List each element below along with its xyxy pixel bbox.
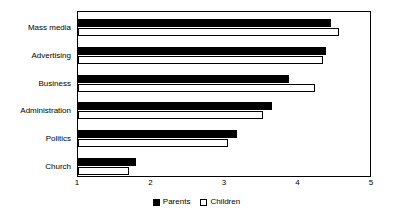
bar-parents-administration — [78, 102, 272, 110]
legend-label: Children — [210, 197, 240, 207]
plot-inner — [78, 12, 370, 176]
x-tick-label: 1 — [75, 178, 79, 188]
category-axis: Mass mediaAdvertisingBusinessAdministrat… — [0, 11, 74, 177]
chart-legend: ParentsChildren — [0, 195, 393, 209]
x-tick-label: 2 — [148, 178, 152, 188]
bar-children-advertising — [78, 56, 323, 64]
legend-item-parents: Parents — [153, 197, 191, 207]
bar-parents-business — [78, 75, 289, 83]
legend-label: Parents — [163, 197, 191, 207]
category-label: Administration — [20, 106, 71, 115]
filled-square-icon — [153, 199, 160, 206]
bar-parents-church — [78, 158, 136, 166]
category-label: Business — [39, 79, 71, 88]
bar-children-administration — [78, 111, 263, 119]
category-label: Politics — [46, 134, 71, 143]
bar-parents-politics — [78, 130, 237, 138]
bar-parents-advertising — [78, 47, 326, 55]
bar-children-church — [78, 167, 129, 175]
bar-children-business — [78, 84, 315, 92]
empty-square-icon — [200, 199, 207, 206]
category-label: Mass media — [28, 23, 71, 32]
plot-area — [77, 11, 371, 177]
x-tick-label: 5 — [369, 178, 373, 188]
x-tick-label: 3 — [222, 178, 226, 188]
category-label: Church — [45, 162, 71, 171]
bar-chart-figure: Mass mediaAdvertisingBusinessAdministrat… — [0, 0, 393, 217]
bar-parents-mass-media — [78, 19, 331, 27]
category-label: Advertising — [31, 51, 71, 60]
bar-children-mass-media — [78, 28, 339, 36]
bar-children-politics — [78, 139, 228, 147]
legend-item-children: Children — [200, 197, 240, 207]
x-axis: 12345 — [77, 178, 371, 190]
x-tick-label: 4 — [295, 178, 299, 188]
